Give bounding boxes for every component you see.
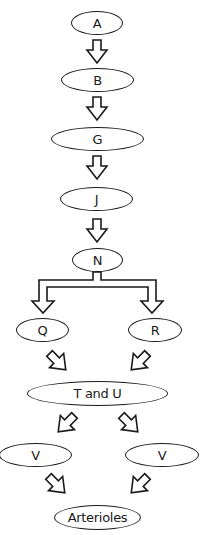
node-q: Q <box>16 318 69 342</box>
arrow-tu-to-v1 <box>51 408 81 438</box>
arrow-a-to-b <box>87 40 107 63</box>
node-j: J <box>60 187 133 211</box>
node-j-label: J <box>95 192 99 207</box>
arrow-v2-to-arterioles <box>124 469 154 499</box>
node-arterioles-label: Arterioles <box>68 510 128 525</box>
node-b: B <box>61 68 134 92</box>
node-v-right: V <box>125 443 199 467</box>
arrow-j-to-n <box>87 219 107 242</box>
node-q-label: Q <box>38 323 48 338</box>
arrow-q-to-tu <box>42 346 72 376</box>
node-r: R <box>128 318 182 342</box>
node-v-left-label: V <box>31 448 40 463</box>
arrow-g-to-j <box>87 156 107 179</box>
node-t-and-u-label: T and U <box>73 386 121 401</box>
node-a-label: A <box>93 16 102 31</box>
node-n: N <box>72 248 123 272</box>
arrow-tu-to-v2 <box>114 408 144 438</box>
node-b-label: B <box>93 73 102 88</box>
node-a: A <box>71 11 123 35</box>
node-arterioles: Arterioles <box>54 505 141 530</box>
arrow-n-branch <box>32 272 163 313</box>
node-t-and-u: T and U <box>27 381 168 406</box>
node-v-right-label: V <box>158 448 167 463</box>
node-v-left: V <box>0 443 72 467</box>
node-n-label: N <box>93 253 102 268</box>
arrow-v1-to-arterioles <box>41 469 71 499</box>
node-r-label: R <box>151 323 160 338</box>
node-g-label: G <box>93 132 103 147</box>
node-g: G <box>51 127 144 151</box>
arrow-b-to-g <box>87 97 107 120</box>
arrow-r-to-tu <box>124 346 154 376</box>
